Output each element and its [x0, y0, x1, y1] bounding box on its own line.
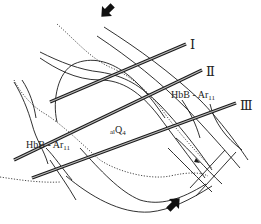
profile-label-III: Ⅲ — [240, 98, 253, 113]
profile-label-II: Ⅱ — [206, 64, 215, 79]
contact-lines — [14, 27, 248, 212]
profile-line-I — [50, 44, 186, 102]
geological-diagram: Ⅰ Ⅱ Ⅲ HbB - Ar11 HbB - Ar11 alQ4 — [0, 0, 261, 224]
stress-arrow-top-icon — [96, 0, 117, 21]
unit-label-center: alQ4 — [110, 124, 126, 137]
profile-label-I: Ⅰ — [190, 37, 195, 52]
